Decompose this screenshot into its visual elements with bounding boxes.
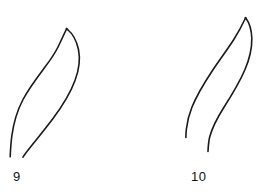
figure-9-outer-stroke <box>23 30 79 158</box>
figure-10-tip-stroke <box>245 18 246 19</box>
figure-10-caption: 10 <box>191 170 206 183</box>
botanical-line-drawing <box>0 0 271 195</box>
figure-9-tip-stroke <box>66 28 67 29</box>
figure-10-drawing <box>186 18 252 152</box>
illustration-plate: 9 10 <box>0 0 271 195</box>
figure-9-caption: 9 <box>13 170 21 183</box>
figure-9-drawing <box>10 28 79 157</box>
figure-10-outer-stroke <box>208 18 252 152</box>
figure-10-inner-stroke <box>186 19 245 138</box>
